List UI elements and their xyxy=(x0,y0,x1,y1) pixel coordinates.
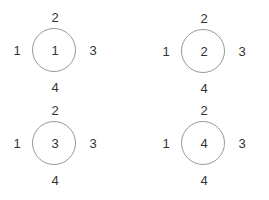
node-bottom-label: 4 xyxy=(194,82,214,96)
node-bottom-label: 4 xyxy=(45,174,65,188)
node-center-label: 1 xyxy=(45,44,65,58)
node-top-label: 2 xyxy=(194,12,214,26)
node-right-label: 3 xyxy=(83,44,103,58)
node-left-label: 1 xyxy=(7,44,27,58)
node-right-label: 3 xyxy=(232,45,252,59)
node-left-label: 1 xyxy=(156,137,176,151)
node-bottom-label: 4 xyxy=(45,81,65,95)
node-bottom-label: 4 xyxy=(194,174,214,188)
node-top-label: 2 xyxy=(45,104,65,118)
node-right-label: 3 xyxy=(83,137,103,151)
node-top-label: 2 xyxy=(194,104,214,118)
node-left-label: 1 xyxy=(156,45,176,59)
node-left-label: 1 xyxy=(7,137,27,151)
node-center-label: 3 xyxy=(45,137,65,151)
node-top-label: 2 xyxy=(45,11,65,25)
node-center-label: 4 xyxy=(194,137,214,151)
node-center-label: 2 xyxy=(194,45,214,59)
node-right-label: 3 xyxy=(232,137,252,151)
